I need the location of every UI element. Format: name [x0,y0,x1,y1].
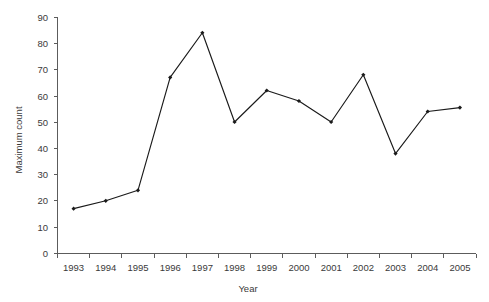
x-tick-label: 2003 [385,262,406,273]
x-tick-label: 1999 [256,262,277,273]
x-tick-label: 1997 [192,262,213,273]
x-tick-label: 1998 [224,262,245,273]
y-tick-label: 60 [37,91,48,102]
line-chart: 90 80 70 60 50 40 30 20 10 0 [0,0,489,302]
x-tick-label: 1993 [63,262,84,273]
x-tick-label: 2004 [417,262,438,273]
x-tick-label: 1994 [95,262,116,273]
y-tick-label: 10 [37,222,48,233]
x-tick-label: 2001 [321,262,342,273]
x-tick-label: 2002 [353,262,374,273]
x-axis-title: Year [238,283,257,294]
y-tick-label: 20 [37,195,48,206]
x-tick-label: 1995 [127,262,148,273]
y-tick-label: 70 [37,64,48,75]
chart-canvas: 90 80 70 60 50 40 30 20 10 0 [0,0,489,302]
x-tick-label: 2000 [288,262,309,273]
y-tick-label: 30 [37,169,48,180]
x-tick-label: 1996 [160,262,181,273]
chart-background [0,0,489,302]
x-tick-label: 2005 [449,262,470,273]
y-tick-label: 80 [37,38,48,49]
y-tick-label: 0 [43,248,48,259]
y-tick-label: 50 [37,117,48,128]
y-axis-title: Maximum count [13,106,24,173]
y-tick-label: 90 [37,12,48,23]
y-tick-label: 40 [37,143,48,154]
